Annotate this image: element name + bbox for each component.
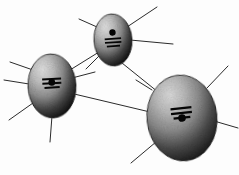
diagram-canvas: Three-node shaded ellipse network diagra… [0, 0, 239, 175]
node-left-atom-glyph [42, 77, 62, 89]
ray-left-node-lower-left [9, 103, 33, 120]
ray-top-node-upper-right [127, 7, 157, 27]
ray-top-node-upper-left [79, 19, 97, 27]
ray-top-node-lower-left [86, 56, 99, 69]
ray-right-node-right [214, 121, 238, 128]
ray-right-node-lower-left [131, 142, 156, 163]
ray-left-node-right [72, 72, 95, 78]
ray-top-node-right [130, 40, 173, 44]
node-left-body [26, 53, 77, 119]
edge-left-to-right [70, 93, 150, 112]
node-left[interactable] [26, 53, 77, 119]
ray-left-node-upper-left [10, 62, 33, 70]
node-top[interactable] [92, 13, 134, 68]
node-top-body [92, 13, 134, 68]
edge-top-to-right [122, 63, 158, 92]
ray-left-node-down [50, 116, 52, 142]
ray-right-node-upper-right [207, 66, 228, 88]
network-diagram [0, 0, 239, 175]
ray-left-node-left [4, 80, 29, 84]
